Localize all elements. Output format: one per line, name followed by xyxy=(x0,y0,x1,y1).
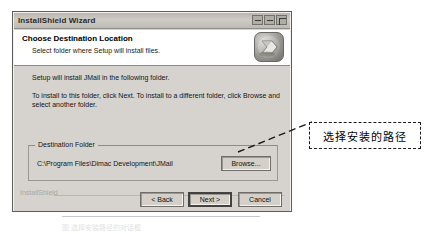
destination-folder-label: Destination Folder xyxy=(35,141,98,148)
minimize-icon[interactable] xyxy=(252,15,263,25)
figure-caption: 图 选择安装路径的对话框 xyxy=(62,222,282,232)
annotation-callout-text: 选择安装的路径 xyxy=(323,128,407,144)
browse-button[interactable]: Browse... xyxy=(221,156,271,171)
dialog-title: InstallShield Wizard xyxy=(18,16,96,25)
destination-folder-group: Destination Folder C:\Program Files\Dima… xyxy=(28,145,278,181)
annotation-callout-box: 选择安装的路径 xyxy=(309,122,421,149)
body-line-install-target: Setup will install JMail in the followin… xyxy=(32,73,169,82)
header-title: Choose Destination Location xyxy=(22,34,133,43)
dialog-titlebar[interactable]: InstallShield Wizard xyxy=(14,13,290,29)
destination-folder-path: C:\Program Files\Dimac Development\JMail xyxy=(37,160,173,167)
cancel-button[interactable]: Cancel xyxy=(238,192,282,207)
maximize-icon[interactable] xyxy=(264,15,275,25)
header-subtitle: Select folder where Setup will install f… xyxy=(32,47,160,54)
body-line-instructions: To install to this folder, click Next. T… xyxy=(32,91,280,109)
dialog-header-band: Choose Destination Location Select folde… xyxy=(14,30,290,66)
next-button[interactable]: Next > xyxy=(188,192,232,207)
close-icon[interactable] xyxy=(276,15,287,25)
installshield-logo-icon xyxy=(254,32,284,62)
window-controls xyxy=(252,15,287,25)
installshield-wizard-dialog: InstallShield Wizard Choose Destination … xyxy=(12,11,292,212)
caption-divider xyxy=(62,216,260,217)
dialog-button-row: < Back Next > Cancel xyxy=(14,189,290,211)
figure-container: InstallShield Wizard Choose Destination … xyxy=(0,0,431,234)
back-button[interactable]: < Back xyxy=(140,192,184,207)
